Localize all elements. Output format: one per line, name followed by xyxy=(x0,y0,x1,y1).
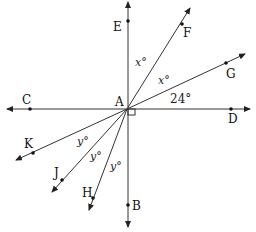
angle-label-y-1: y° xyxy=(76,135,89,148)
point-d xyxy=(229,107,233,111)
label-d: D xyxy=(228,112,238,126)
point-c xyxy=(28,107,32,111)
label-g: G xyxy=(226,67,236,81)
point-e xyxy=(126,19,130,23)
angle-label-y-2: y° xyxy=(89,150,102,163)
geometry-diagram: A E F G D B H J K C x° x° 24° y° y° y° xyxy=(0,0,256,232)
label-b: B xyxy=(132,199,141,213)
angle-label-24: 24° xyxy=(170,92,191,106)
point-j xyxy=(60,178,64,182)
label-h: H xyxy=(82,186,92,200)
angle-label-x-lower: x° xyxy=(158,74,170,87)
label-a: A xyxy=(114,95,124,109)
point-k xyxy=(31,151,35,155)
right-angle-marker xyxy=(128,109,135,115)
label-j: J xyxy=(52,166,59,180)
label-k: K xyxy=(24,137,34,151)
label-f: F xyxy=(183,26,191,40)
label-e: E xyxy=(113,20,122,34)
point-b xyxy=(126,203,130,207)
label-c: C xyxy=(22,93,31,107)
angle-label-x-upper: x° xyxy=(135,56,147,69)
angle-label-y-3: y° xyxy=(109,160,122,173)
point-g xyxy=(224,61,228,65)
